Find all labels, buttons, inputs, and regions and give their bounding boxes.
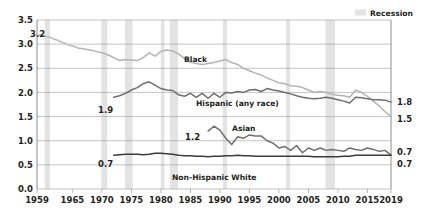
start-label-black: 3.2: [30, 29, 45, 39]
y-axis-label: 2.0: [18, 88, 33, 98]
x-axis-label: 1985: [179, 195, 203, 205]
start-label-white: 0.7: [98, 159, 113, 169]
recession-band: [161, 20, 165, 189]
x-axis-label: 2005: [297, 195, 321, 205]
x-axis-label: 1970: [90, 195, 114, 205]
recession-legend-swatch: [355, 10, 366, 16]
x-axis-label: 1959: [25, 195, 49, 205]
series-label-asian: Asian: [232, 124, 256, 133]
series-label-black: Black: [184, 55, 208, 64]
end-label-hispanic: 1.8: [397, 97, 412, 107]
poverty-ratio-line-chart: 0.00.51.01.52.02.53.03.5 195919651970197…: [0, 0, 428, 222]
recession-band: [326, 20, 335, 189]
x-axis-label: 2019: [379, 195, 403, 205]
end-label-white: 0.7: [397, 159, 412, 169]
x-axis-label: 1965: [61, 195, 85, 205]
x-axis-label: 2000: [267, 195, 291, 205]
recession-band: [170, 20, 178, 189]
start-label-asian: 1.2: [185, 132, 200, 142]
y-axis-label: 2.5: [18, 63, 33, 73]
x-axis-label: 2010: [326, 195, 350, 205]
end-label-asian: 0.7: [397, 147, 412, 157]
x-axis-label: 1980: [149, 195, 173, 205]
y-axis-label: 0.0: [18, 184, 33, 194]
end-label-black: 1.5: [397, 114, 412, 124]
x-axis-label: 1995: [238, 195, 262, 205]
y-axis-label: 1.5: [18, 112, 33, 122]
recession-band: [45, 20, 50, 189]
series-label-hispanic: Hispanic (any race): [196, 99, 279, 108]
x-axis-labels: 1959196519701975198019851990199520002005…: [25, 195, 403, 205]
chart-canvas: 0.00.51.01.52.02.53.03.5 195919651970197…: [0, 0, 428, 222]
y-axis-label: 1.0: [18, 136, 33, 146]
x-axis-label: 1990: [208, 195, 232, 205]
x-axis-label: 1975: [120, 195, 144, 205]
recession-legend-label: Recession: [370, 9, 413, 18]
y-axis-label: 3.5: [18, 15, 33, 25]
start-label-hispanic: 1.9: [98, 105, 113, 115]
recession-band: [286, 20, 290, 189]
x-axis-label: 2015: [356, 195, 380, 205]
y-axis-label: 0.5: [18, 160, 33, 170]
recession-band: [125, 20, 133, 189]
series-label-white: Non-Hispanic White: [172, 173, 257, 182]
y-axis-label: 3.0: [18, 39, 33, 49]
